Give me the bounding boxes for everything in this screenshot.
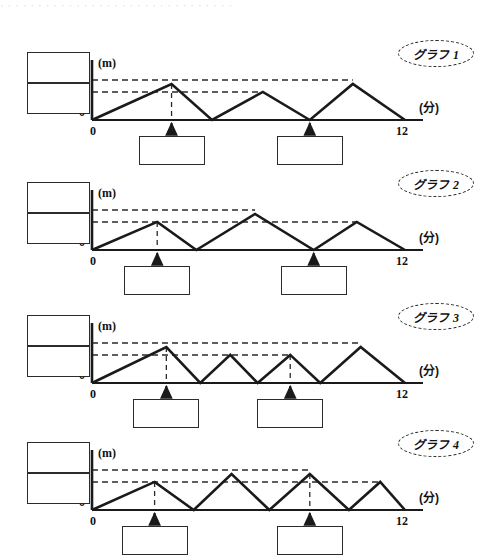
left-answer-box-2[interactable] xyxy=(27,83,90,114)
data-polyline xyxy=(92,214,405,250)
y-unit-label: (m) xyxy=(98,56,116,71)
y-unit-label: (m) xyxy=(98,446,116,461)
left-answer-box-1[interactable] xyxy=(27,315,90,346)
left-answer-box-2[interactable] xyxy=(27,213,90,244)
x-unit-label: (分) xyxy=(419,361,439,378)
x-tick-start: 0 xyxy=(90,387,96,402)
bottom-answer-box-2[interactable] xyxy=(277,526,343,555)
graph-block-3: (m)(分)0012グラフ 3 xyxy=(0,285,487,417)
x-tick-start: 0 xyxy=(90,124,96,139)
graph-block-4: (m)(分)0012グラフ 4 xyxy=(0,412,487,544)
graph-block-1: (m)(分)0012グラフ 1 xyxy=(0,22,487,154)
worksheet-page: · · · · · · · · · · · · · · · · · · · · … xyxy=(0,0,487,557)
x-tick-end: 12 xyxy=(396,124,408,139)
graph-block-2: (m)(分)0012グラフ 2 xyxy=(0,152,487,284)
left-answer-box-1[interactable] xyxy=(27,182,90,213)
left-answer-box-2[interactable] xyxy=(27,346,90,377)
left-answer-box-1[interactable] xyxy=(27,52,90,83)
x-tick-end: 12 xyxy=(396,387,408,402)
x-unit-label: (分) xyxy=(419,228,439,245)
graph-tag-3: グラフ 3 xyxy=(398,303,474,330)
left-answer-box-2[interactable] xyxy=(27,473,90,504)
data-polyline xyxy=(92,84,405,120)
data-polyline xyxy=(92,474,405,510)
graph-tag-2: グラフ 2 xyxy=(398,170,474,197)
x-tick-start: 0 xyxy=(90,514,96,529)
data-polyline xyxy=(92,347,405,383)
x-tick-start: 0 xyxy=(90,254,96,269)
cut-off-header-text: · · · · · · · · · · · · · · · · · · · · … xyxy=(0,0,487,10)
y-unit-label: (m) xyxy=(98,186,116,201)
graph-tag-1: グラフ 1 xyxy=(398,40,474,67)
x-tick-end: 12 xyxy=(396,514,408,529)
x-tick-end: 12 xyxy=(396,254,408,269)
bottom-answer-box-1[interactable] xyxy=(122,526,188,555)
y-unit-label: (m) xyxy=(98,319,116,334)
x-unit-label: (分) xyxy=(419,488,439,505)
x-unit-label: (分) xyxy=(419,98,439,115)
graph-tag-4: グラフ 4 xyxy=(398,430,474,457)
left-answer-box-1[interactable] xyxy=(27,442,90,473)
